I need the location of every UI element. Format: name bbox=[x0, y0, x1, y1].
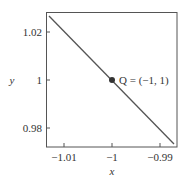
x-tick-label: −0.99 bbox=[147, 151, 173, 163]
y-tick-label: 1.02 bbox=[23, 26, 42, 38]
y-tick-label: 1 bbox=[37, 74, 43, 86]
point-q-label: Q = (−1, 1) bbox=[119, 74, 169, 87]
y-tick-label: 0.98 bbox=[23, 122, 43, 134]
y-axis-label: y bbox=[9, 74, 15, 86]
point-q bbox=[109, 77, 115, 83]
x-axis-label: x bbox=[109, 165, 115, 177]
chart: Q = (−1, 1) −1.01 −1 −0.99 x 1.02 1 0.98… bbox=[0, 0, 188, 182]
x-tick-label: −1.01 bbox=[51, 151, 76, 163]
x-axis: −1.01 −1 −0.99 x bbox=[51, 143, 173, 177]
x-tick-label: −1 bbox=[106, 151, 118, 163]
y-axis: 1.02 1 0.98 y bbox=[9, 26, 50, 134]
